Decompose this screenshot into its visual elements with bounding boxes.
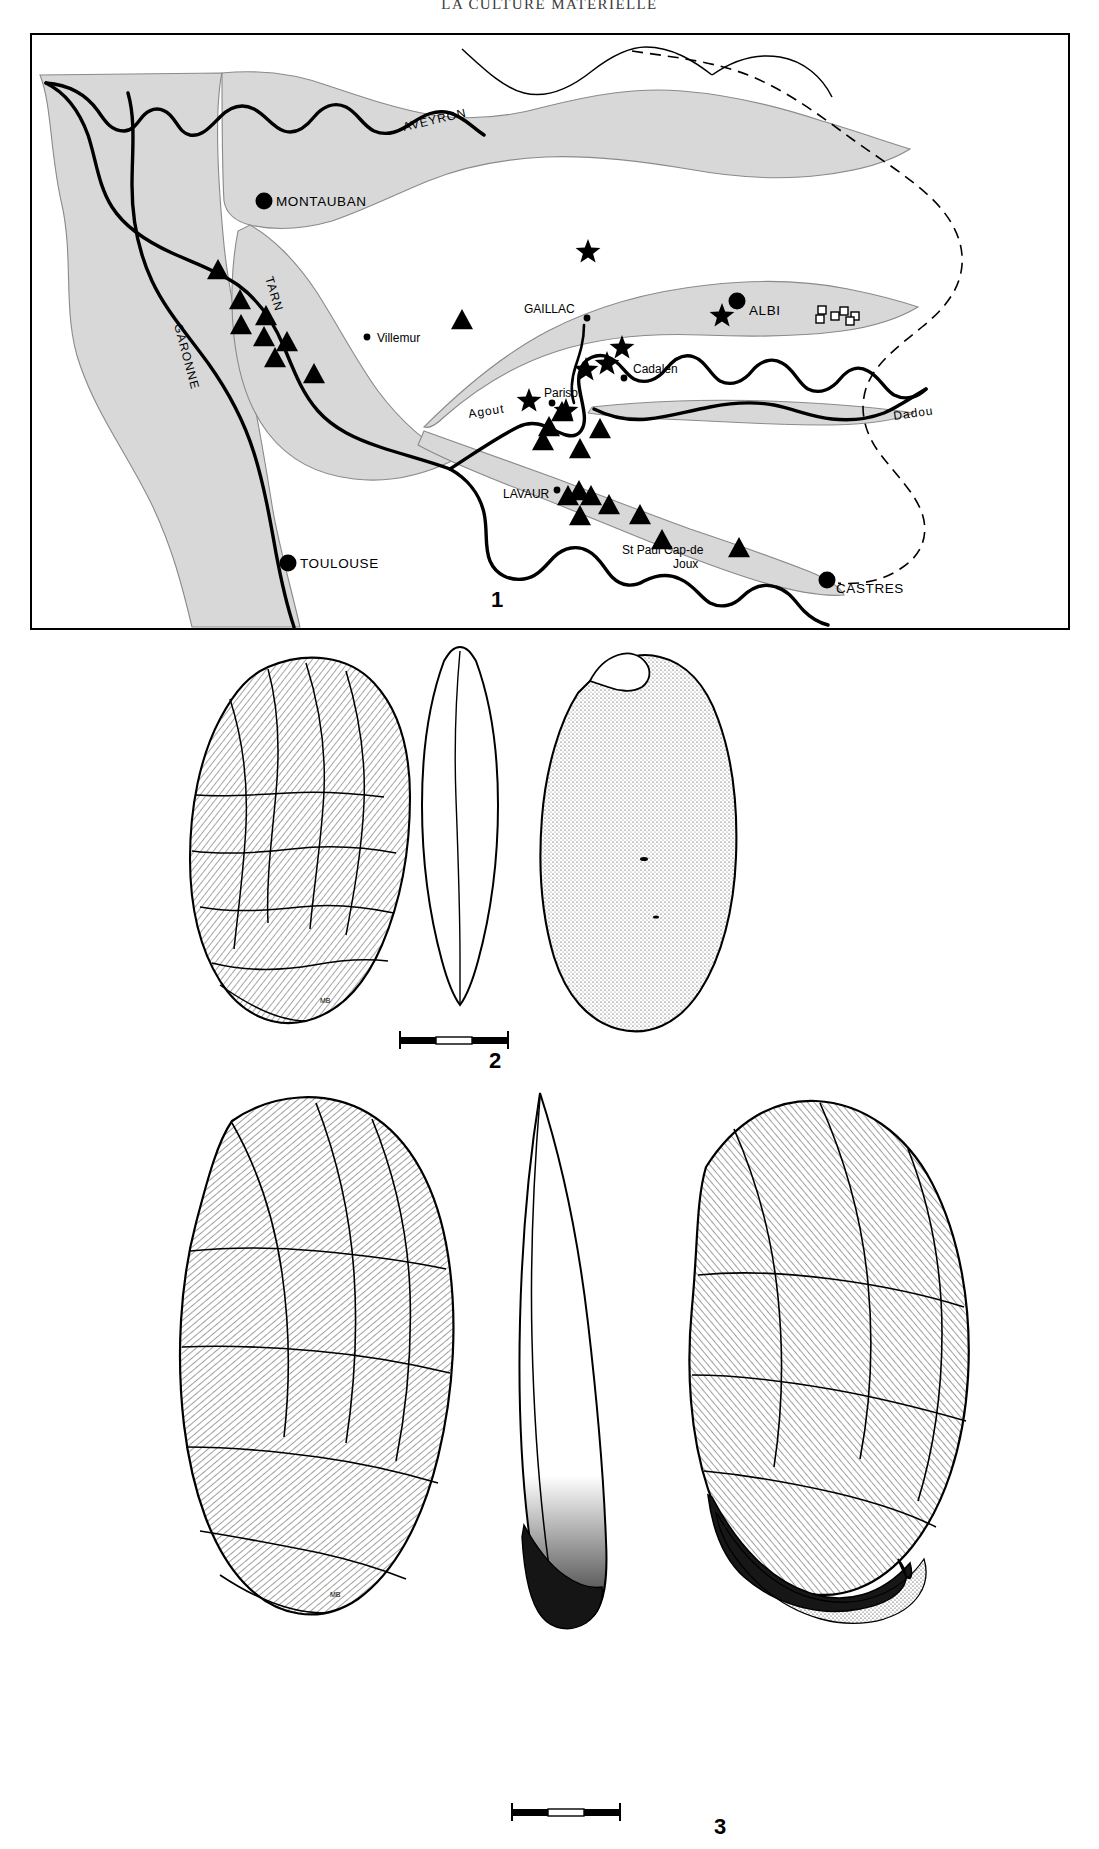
running-head: LA CULTURE MATERIELLE <box>0 0 1099 13</box>
city-marker-albi <box>729 293 746 310</box>
map-label: Cadalen <box>633 362 678 376</box>
site-marker-triangle <box>569 438 591 458</box>
place-marker-villemur <box>364 334 371 341</box>
site-marker-open-square <box>816 315 824 323</box>
map-label: St Paul Cap-de <box>622 543 704 557</box>
tool-2-scale-bar <box>400 1031 508 1049</box>
site-marker-triangle <box>451 309 473 329</box>
svg-text:MB: MB <box>320 997 331 1004</box>
tool-2-ventral-view <box>541 653 737 1031</box>
place-marker-parisot <box>549 400 556 407</box>
tool-drawing-3: MB <box>120 1085 1099 1845</box>
map-label: Parisot <box>544 386 582 400</box>
city-marker-castres <box>819 572 836 589</box>
administrative-boundary <box>462 47 832 97</box>
figure-page: LA CULTURE MATERIELLE <box>0 0 1099 1849</box>
tool-drawing-2: MB 2 <box>120 645 820 1065</box>
tool-3-dorsal-view: MB <box>180 1097 453 1614</box>
site-marker-triangle <box>589 418 611 438</box>
panel-2-number: 2 <box>489 1048 501 1074</box>
panel-3-number: 3 <box>714 1814 726 1840</box>
panel-1-number: 1 <box>491 587 503 613</box>
city-marker-montauban <box>256 193 273 210</box>
place-marker-gaillac <box>584 315 591 322</box>
tool-3-ventral-view <box>689 1101 968 1623</box>
map-label: CASTRES <box>836 581 904 596</box>
tool-3-svg: MB <box>120 1085 1099 1845</box>
city-marker-toulouse <box>280 555 297 572</box>
tool-3-profile-view <box>519 1093 606 1629</box>
site-marker-open-square <box>818 306 826 314</box>
site-marker-star <box>576 239 601 263</box>
tool-3-scale-bar <box>512 1803 620 1821</box>
map-label: MONTAUBAN <box>276 194 367 209</box>
map-label: Agout <box>467 401 505 421</box>
svg-text:MB: MB <box>330 1591 341 1598</box>
site-marker-open-square <box>840 307 848 315</box>
valley-alluvial-zones <box>40 72 918 627</box>
map-svg: MONTAUBANALBITOULOUSECASTRESGAILLACVille… <box>32 35 1068 628</box>
map-label: Joux <box>673 557 698 571</box>
tool-2-dorsal-view: MB <box>190 658 410 1023</box>
map-label: LAVAUR <box>503 487 550 501</box>
map-label: TOULOUSE <box>300 556 379 571</box>
tool-2-profile-view <box>422 647 498 1005</box>
tool-2-svg: MB <box>120 645 820 1065</box>
map-label: ALBI <box>749 303 781 318</box>
distribution-map-panel: MONTAUBANALBITOULOUSECASTRESGAILLACVille… <box>30 33 1070 630</box>
site-marker-open-square <box>831 312 839 320</box>
place-marker-cadalen <box>621 375 628 382</box>
site-marker-open-square <box>846 317 854 325</box>
site-marker-star <box>517 388 542 412</box>
map-label: Villemur <box>377 331 420 345</box>
map-label: GAILLAC <box>524 302 575 316</box>
place-marker-lavaur <box>554 487 561 494</box>
